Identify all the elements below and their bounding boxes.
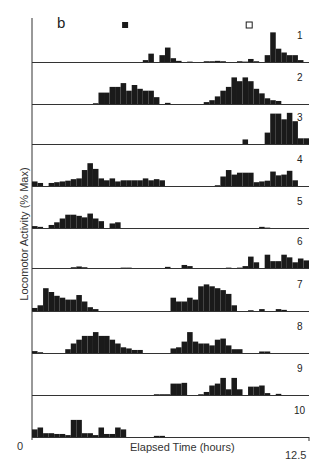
histogram-bar [121, 429, 127, 437]
histogram-bar [137, 350, 143, 353]
histogram-bar [248, 387, 254, 395]
histogram-bar [60, 219, 66, 229]
activity-histogram-stack [0, 0, 330, 476]
histogram-bar [176, 61, 182, 62]
histogram-bar [126, 180, 132, 186]
histogram-bar [292, 262, 298, 268]
histogram-bar [209, 100, 215, 104]
histogram-bar [176, 347, 182, 353]
histogram-bar [43, 433, 49, 437]
histogram-bar [137, 180, 143, 186]
histogram-bar [276, 175, 282, 186]
figure-caption [0, 468, 330, 476]
histogram-bar [215, 96, 221, 104]
open-square-marker-icon [246, 22, 252, 28]
histogram-bar [137, 89, 143, 104]
panel-number: 7 [297, 279, 303, 290]
histogram-bar [182, 302, 188, 312]
histogram-bar [104, 336, 110, 353]
panel-8 [32, 332, 309, 353]
histogram-bar [215, 340, 221, 353]
histogram-bar [171, 348, 177, 353]
histogram-bar [226, 170, 232, 186]
histogram-bar [303, 138, 309, 144]
histogram-bar [115, 222, 121, 228]
histogram-bar [82, 433, 88, 437]
histogram-bar [121, 347, 127, 353]
histogram-bar [93, 435, 99, 437]
histogram-bar [32, 226, 38, 228]
histogram-bar [49, 292, 55, 311]
histogram-bar [231, 77, 237, 104]
histogram-bar [237, 173, 243, 186]
panel-number: 4 [297, 154, 303, 165]
histogram-bar [270, 172, 276, 186]
histogram-bar [259, 181, 265, 186]
histogram-bar [32, 351, 38, 353]
histogram-bar [115, 428, 121, 438]
panel-6 [32, 255, 309, 269]
histogram-bar [204, 344, 210, 354]
histogram-bar [193, 300, 199, 311]
histogram-bar [209, 386, 215, 396]
histogram-bar [110, 434, 116, 437]
histogram-bar [115, 344, 121, 354]
histogram-bar [248, 310, 254, 311]
histogram-bar [259, 227, 265, 228]
histogram-bar [182, 265, 188, 268]
histogram-bar [259, 309, 265, 311]
panel-number: 8 [297, 321, 303, 332]
histogram-bar [198, 344, 204, 354]
histogram-bar [76, 216, 82, 228]
histogram-bar [248, 257, 254, 268]
histogram-bar [110, 340, 116, 353]
histogram-bar [204, 61, 210, 62]
histogram-bar [76, 295, 82, 311]
histogram-bar [54, 296, 60, 311]
histogram-bar [98, 221, 104, 228]
histogram-bar [159, 394, 165, 395]
histogram-bar [265, 55, 271, 62]
histogram-bar [98, 428, 104, 438]
histogram-bar [93, 332, 99, 353]
histogram-bar [215, 288, 221, 311]
panel-number: 2 [297, 72, 303, 83]
histogram-bar [93, 219, 99, 229]
histogram-bar [265, 393, 271, 395]
histogram-bar [248, 81, 254, 104]
histogram-bar [287, 257, 293, 268]
histogram-bar [276, 309, 282, 311]
histogram-bar [281, 175, 287, 186]
histogram-bar [65, 215, 71, 228]
histogram-bar [259, 93, 265, 104]
panel-4 [32, 163, 309, 186]
histogram-bar [254, 182, 260, 186]
histogram-bar [226, 87, 232, 104]
histogram-bar [254, 61, 260, 62]
histogram-bar [110, 223, 116, 228]
histogram-bar [292, 55, 298, 62]
histogram-bar [237, 81, 243, 104]
histogram-bar [265, 98, 271, 104]
histogram-bar [265, 133, 271, 144]
histogram-bar [154, 179, 160, 186]
histogram-bar [65, 349, 71, 353]
histogram-bar [104, 434, 110, 437]
panel-2 [32, 77, 309, 104]
histogram-bar [237, 389, 243, 395]
panel-9 [32, 378, 309, 396]
histogram-bar [65, 435, 71, 437]
histogram-bar [265, 351, 271, 353]
histogram-bar [159, 180, 165, 186]
histogram-bar [159, 55, 165, 62]
histogram-bar [176, 384, 182, 395]
histogram-bar [43, 288, 49, 311]
histogram-bar [76, 178, 82, 186]
histogram-bar [270, 100, 276, 104]
histogram-bar [38, 227, 44, 228]
histogram-bar [98, 178, 104, 186]
histogram-bar [259, 386, 265, 396]
histogram-bar [215, 384, 221, 395]
histogram-bar [204, 392, 210, 395]
histogram-bar [148, 91, 154, 104]
